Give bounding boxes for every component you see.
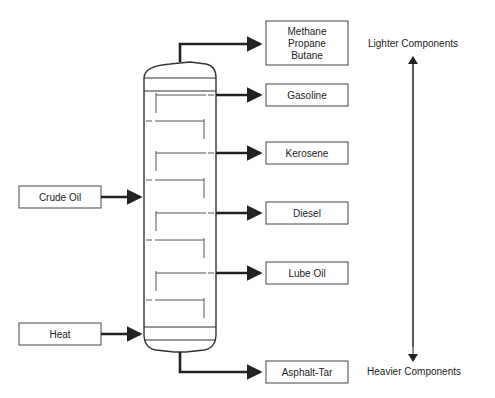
lighter-components-label: Lighter Components [368, 38, 458, 49]
asphalt-tar-label: Asphalt-Tar [282, 367, 333, 378]
crude-oil-label: Crude Oil [39, 192, 81, 203]
heat-label: Heat [49, 329, 70, 340]
gases-arrow [180, 44, 260, 62]
distillation-diagram: Crude Oil Heat Methane Propane Butane Ga… [0, 0, 495, 398]
output-gases: Methane Propane Butane [180, 21, 348, 65]
butane-label: Butane [291, 50, 323, 61]
heavier-components-label: Heavier Components [367, 366, 461, 377]
output-gasoline: Gasoline [216, 84, 348, 106]
propane-label: Propane [288, 38, 326, 49]
input-heat: Heat [19, 323, 140, 345]
distillation-column [144, 62, 216, 352]
asphalt-tar-arrow [180, 352, 260, 372]
output-lube-oil: Lube Oil [216, 262, 348, 284]
lube-oil-label: Lube Oil [288, 268, 325, 279]
output-asphalt-tar: Asphalt-Tar [180, 352, 348, 383]
diesel-label: Diesel [293, 208, 321, 219]
gasoline-label: Gasoline [287, 90, 327, 101]
output-diesel: Diesel [216, 202, 348, 224]
methane-label: Methane [288, 26, 327, 37]
component-scale: Lighter Components Heavier Components [367, 38, 461, 377]
kerosene-label: Kerosene [286, 148, 329, 159]
input-crude-oil: Crude Oil [19, 186, 140, 208]
output-kerosene: Kerosene [216, 142, 348, 164]
column-shell [144, 62, 216, 352]
